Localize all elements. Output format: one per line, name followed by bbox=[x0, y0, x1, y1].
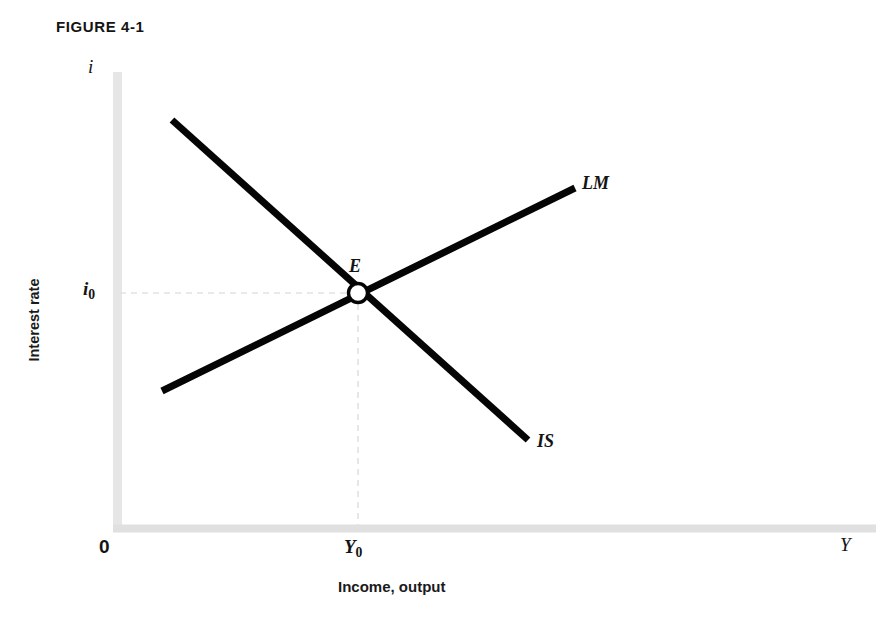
lm-curve-label: LM bbox=[582, 173, 609, 194]
equilibrium-point-label: E bbox=[349, 256, 361, 277]
lm-curve-label-glyph: LM bbox=[582, 173, 609, 193]
x-axis-title: Income, output bbox=[338, 578, 446, 595]
is-curve-label-glyph: IS bbox=[537, 431, 554, 451]
x-axis-symbol-y-glyph: Y bbox=[840, 534, 851, 555]
plot-canvas bbox=[0, 0, 884, 619]
y-tick-label-i0-subscript: 0 bbox=[88, 287, 95, 302]
y-axis-symbol-i-glyph: i bbox=[88, 56, 93, 77]
figure-container: FIGURE 4-1 Interest rate Income, output … bbox=[0, 0, 884, 619]
y-axis-title: Interest rate bbox=[26, 250, 42, 390]
y-tick-label-i0: i0 bbox=[83, 278, 95, 303]
y-axis-symbol-i: i bbox=[88, 56, 93, 78]
x-tick-label-y0-base: Y bbox=[344, 536, 356, 557]
x-tick-label-y0-subscript: 0 bbox=[356, 545, 363, 560]
equilibrium-point-marker bbox=[349, 284, 368, 303]
x-axis-symbol-y: Y bbox=[840, 534, 851, 556]
is-curve-label: IS bbox=[537, 431, 554, 452]
origin-label: 0 bbox=[99, 536, 110, 558]
is-curve bbox=[172, 120, 528, 440]
equilibrium-point-label-glyph: E bbox=[349, 256, 361, 276]
x-tick-label-y0: Y0 bbox=[344, 536, 362, 561]
